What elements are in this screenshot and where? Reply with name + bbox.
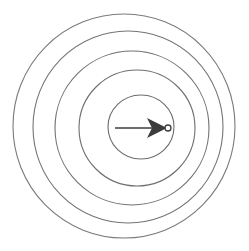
figure-background — [0, 0, 249, 251]
diagram-canvas: Concentric circles with radial arrow — [0, 0, 249, 251]
center-point-marker — [165, 125, 171, 131]
concentric-circles-figure — [0, 0, 249, 251]
